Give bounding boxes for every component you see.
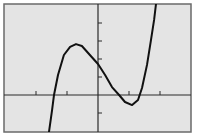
function-plot (0, 0, 197, 140)
